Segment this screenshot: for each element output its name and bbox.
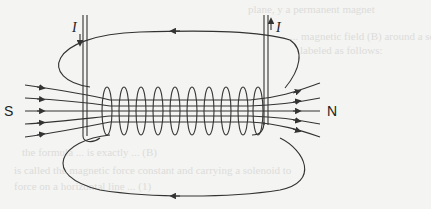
- current-label-right: I: [276, 20, 281, 36]
- outer-field-loop-bottom: [63, 135, 305, 196]
- south-pole-label: S: [4, 103, 13, 119]
- current-label-left: I: [72, 20, 77, 36]
- field-line: [25, 98, 320, 106]
- outer-field-loop-top: [59, 31, 299, 88]
- field-line: [25, 122, 320, 137]
- north-pole-label: N: [327, 103, 337, 119]
- field-line: [25, 116, 320, 124]
- solenoid-diagram: [0, 0, 431, 209]
